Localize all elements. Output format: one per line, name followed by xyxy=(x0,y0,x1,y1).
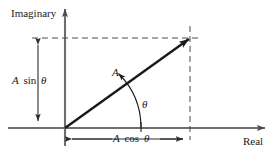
vertical-component-function: sin xyxy=(23,74,36,86)
horizontal-component-magnitude: A xyxy=(113,132,120,144)
angle-label: θ xyxy=(142,99,147,110)
horizontal-component-function: cos xyxy=(124,132,139,144)
horizontal-component-angle: θ xyxy=(144,132,149,144)
real-axis-label: Real xyxy=(243,136,263,147)
horizontal-component-label: A cos θ xyxy=(113,133,149,144)
vertical-component-label: A sin θ xyxy=(12,75,46,86)
vertical-component-magnitude: A xyxy=(12,74,19,86)
phasor-diagram-figure: Imaginary Real A sin θ A cos θ A θ xyxy=(0,0,280,155)
imaginary-axis-label: Imaginary xyxy=(11,8,56,19)
vertical-component-angle: θ xyxy=(41,74,46,86)
vector-magnitude-label: A xyxy=(112,67,119,78)
